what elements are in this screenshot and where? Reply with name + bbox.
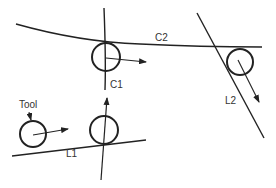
tool-circle-start (20, 121, 46, 147)
curve-c2 (16, 24, 262, 47)
line-l1 (12, 140, 146, 156)
label-c2: C2 (155, 32, 168, 43)
tool-path-diagram: Tool C1 C2 L1 L2 (0, 0, 276, 188)
direction-arrow-icon (106, 58, 146, 62)
label-tool: Tool (19, 99, 37, 110)
tool-circle-c2-l2 (227, 49, 253, 75)
tool-pointer-arrow-icon (29, 112, 31, 120)
path-l1-to-c1 (101, 98, 107, 180)
line-l2 (197, 13, 264, 138)
curve-c1 (104, 8, 105, 90)
direction-arrow-icon (33, 129, 68, 135)
label-l2: L2 (225, 95, 237, 106)
label-l1: L1 (66, 148, 78, 159)
label-c1: C1 (110, 79, 123, 90)
